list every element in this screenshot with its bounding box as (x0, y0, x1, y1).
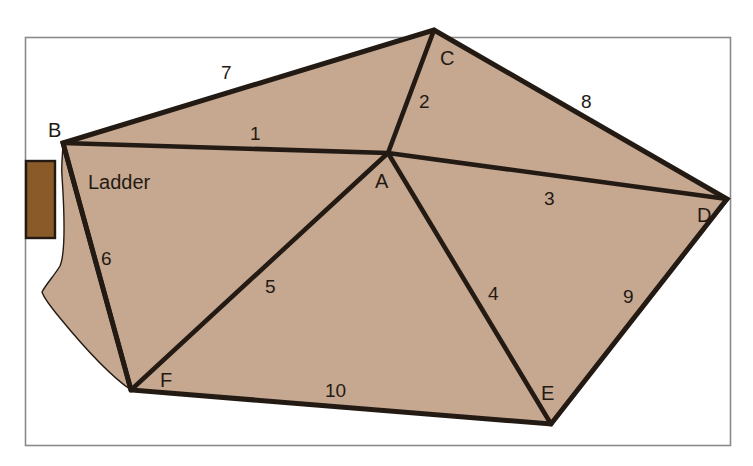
vertex-label-e: E (541, 382, 554, 404)
edge-label-1: 1 (250, 123, 261, 144)
edge-label-10: 10 (325, 380, 346, 401)
edge-label-3: 3 (544, 188, 555, 209)
ladder-label: Ladder (88, 171, 151, 193)
edge-label-8: 8 (581, 91, 592, 112)
vertex-label-a: A (375, 170, 389, 192)
edge-label-2: 2 (419, 91, 430, 112)
edge-label-5: 5 (265, 276, 276, 297)
edge-label-6: 6 (101, 248, 112, 269)
vertex-label-c: C (440, 47, 454, 69)
diagram-canvas: Ladder A B C D E F 1 2 3 4 5 6 7 8 9 10 (0, 0, 753, 466)
vertex-label-f: F (160, 369, 172, 391)
edge-label-9: 9 (623, 286, 634, 307)
vertex-label-d: D (697, 204, 711, 226)
vertex-label-b: B (48, 119, 61, 141)
ladder-rectangle (26, 161, 55, 238)
edge-label-7: 7 (221, 62, 232, 83)
edge-label-4: 4 (488, 283, 499, 304)
roof-plan-diagram: Ladder A B C D E F 1 2 3 4 5 6 7 8 9 10 (0, 0, 753, 466)
